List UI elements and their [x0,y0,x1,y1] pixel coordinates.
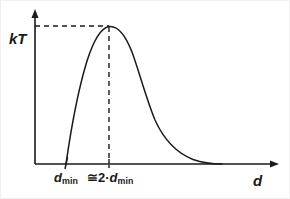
tick-label-2dmin: ≅2·dmin [87,171,134,186]
y-axis-label: kT [9,31,27,46]
peak-dmin-symbol: d [110,170,118,185]
dmin-subscript: min [62,176,78,186]
figure-container: kT d dmin ≅2·dmin [0,0,290,199]
dmin-symbol: d [54,170,62,185]
x-axis-arrow-icon [270,161,279,168]
tick-label-dmin: dmin [54,171,78,186]
distribution-curve [66,26,222,164]
approx-equal-icon: ≅ [87,170,98,185]
y-axis-label-text: kT [9,30,27,47]
plot-canvas [1,1,290,199]
peak-dmin-subscript: min [118,176,134,186]
x-axis-label-text: d [253,172,262,189]
x-axis-label: d [253,173,262,188]
y-axis-arrow-icon [32,9,39,18]
